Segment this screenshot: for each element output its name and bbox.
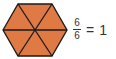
numerator: 6: [74, 18, 80, 28]
equals-sign: =: [86, 22, 94, 38]
result: 1: [99, 22, 107, 38]
fraction-equation: 6 6 = 1: [73, 18, 107, 41]
hexagon-fraction-diagram: [0, 0, 70, 59]
denominator: 6: [74, 31, 80, 41]
fraction: 6 6: [73, 18, 81, 41]
